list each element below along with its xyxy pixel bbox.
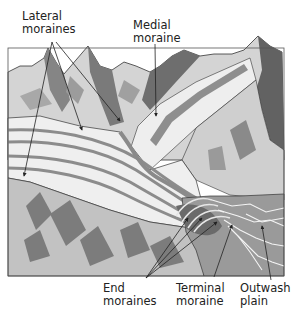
label-lateral-moraines: Lateral moraines [22,10,76,36]
glacier-diagram: Lateral moraines Medial moraine End mora… [0,0,295,313]
label-medial-moraine: Medial moraine [133,19,181,45]
glacier-illustration [0,0,295,313]
label-end-moraines: End moraines [103,282,157,308]
label-outwash-plain: Outwash plain [240,282,291,308]
label-terminal-moraine: Terminal moraine [176,282,225,308]
